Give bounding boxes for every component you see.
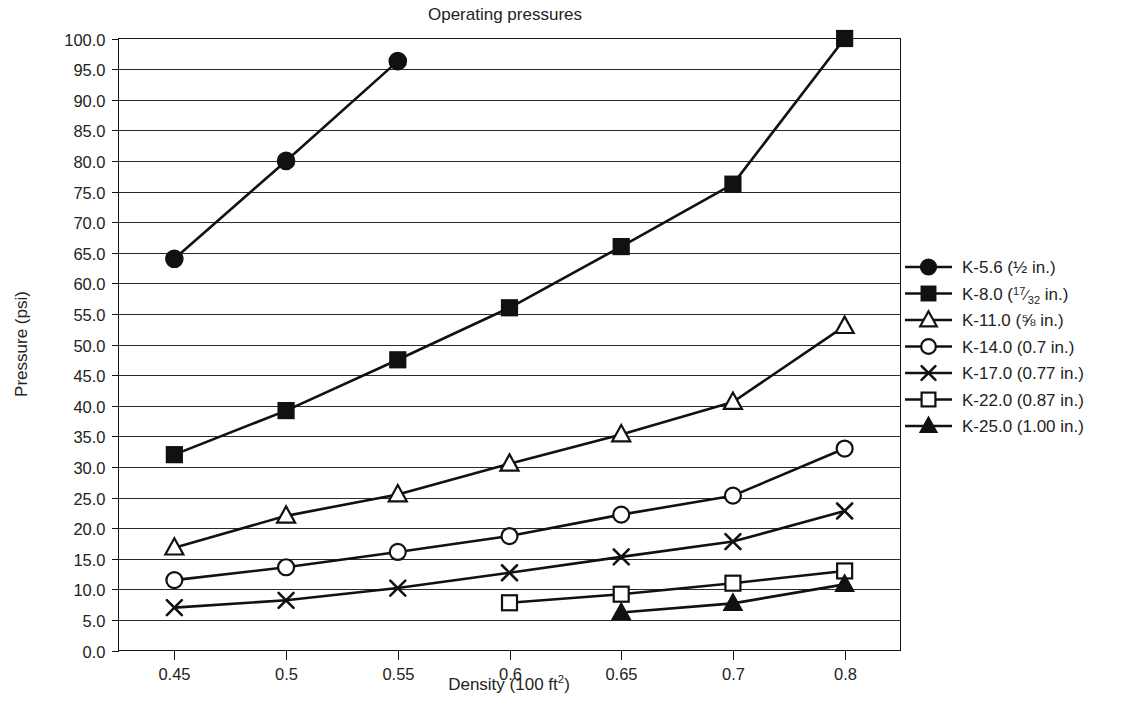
legend-label: K-14.0 (0.7 in.) <box>962 338 1074 357</box>
legend-item[interactable]: K-14.0 (0.7 in.) <box>905 338 1074 357</box>
y-axis-tick-label: 25.0 <box>73 490 105 508</box>
data-point-marker <box>278 403 294 419</box>
open-square-marker <box>725 576 740 591</box>
open-circle-marker <box>502 528 518 544</box>
x-axis-tick-label: 0.45 <box>158 665 190 683</box>
y-axis-tick-label: 85.0 <box>73 122 105 140</box>
data-point-marker <box>837 31 853 47</box>
y-axis-tick-label: 70.0 <box>73 214 105 232</box>
filled-square-marker <box>278 403 294 419</box>
data-point-marker <box>166 250 183 267</box>
open-circle-marker <box>725 488 741 504</box>
open-square-marker <box>614 587 629 602</box>
data-point-marker <box>390 352 406 368</box>
data-point-marker <box>613 239 629 255</box>
y-axis-tick-label: 80.0 <box>73 153 105 171</box>
open-circle-marker <box>837 441 853 457</box>
data-point-marker <box>613 507 629 523</box>
legend-fraction-denominator: 32 <box>1028 294 1040 306</box>
legend-label-main: K-14.0 (0.7 in.) <box>962 338 1074 357</box>
x-axis-tick-label: 0.7 <box>722 665 745 683</box>
legend-label-main: K-17.0 (0.77 in.) <box>962 364 1084 383</box>
open-circle-marker <box>921 339 936 354</box>
x-axis-title-main: Density (100 ft <box>448 675 558 694</box>
filled-square-marker <box>167 447 183 463</box>
legend-label: K-17.0 (0.77 in.) <box>962 364 1084 383</box>
filled-square-marker <box>921 286 935 300</box>
filled-circle-marker <box>389 53 406 70</box>
legend-label: K-22.0 (0.87 in.) <box>962 391 1084 410</box>
filled-square-marker <box>502 300 518 316</box>
y-axis-tick-label: 15.0 <box>73 551 105 569</box>
open-circle-marker <box>390 544 406 560</box>
filled-circle-marker <box>166 250 183 267</box>
data-point-marker <box>922 393 936 407</box>
filled-square-marker <box>613 239 629 255</box>
data-point-marker <box>278 559 294 575</box>
filled-circle-marker <box>921 259 937 275</box>
y-axis-tick-label: 10.0 <box>73 581 105 599</box>
legend-label-main: K-11.0 ( <box>962 311 1022 330</box>
data-point-marker <box>725 576 740 591</box>
y-axis-tick-label: 50.0 <box>73 337 105 355</box>
legend-label-tail: in.) <box>1040 285 1068 304</box>
y-axis-tick-label: 20.0 <box>73 520 105 538</box>
filled-square-marker <box>837 31 853 47</box>
legend-label-main: K-5.6 ( <box>962 258 1013 277</box>
legend-label-main: K-8.0 ( <box>962 285 1013 304</box>
legend-label-main: K-22.0 (0.87 in.) <box>962 391 1084 410</box>
x-axis-tick-label: 0.55 <box>382 665 414 683</box>
x-axis-title: Density (100 ft2) <box>448 673 570 694</box>
y-axis-tick-label: 35.0 <box>73 428 105 446</box>
open-square-marker <box>922 393 936 407</box>
legend-label: K-5.6 (½ in.) <box>962 258 1056 277</box>
legend-item[interactable]: K-11.0 (⅝ in.) <box>905 311 1064 330</box>
y-axis-tick-label: 100.0 <box>64 31 105 49</box>
y-axis-tick-label: 55.0 <box>73 306 105 324</box>
data-point-marker <box>921 259 937 275</box>
data-point-marker <box>921 286 935 300</box>
y-axis-tick-label: 40.0 <box>73 398 105 416</box>
legend-item[interactable]: K-5.6 (½ in.) <box>905 258 1056 277</box>
open-square-marker <box>502 595 517 610</box>
data-point-marker <box>725 176 741 192</box>
data-point-marker <box>390 544 406 560</box>
y-axis-tick-label: 60.0 <box>73 275 105 293</box>
open-circle-marker <box>278 559 294 575</box>
data-point-marker <box>167 447 183 463</box>
operating-pressures-figure: Operating pressures 0.05.010.015.020.025… <box>0 0 1145 707</box>
filled-square-marker <box>725 176 741 192</box>
y-axis-tick-label: 0.0 <box>83 643 106 661</box>
data-point-marker <box>614 587 629 602</box>
legend-label-fraction: ½ <box>1013 258 1027 277</box>
legend-label-fraction: ⅝ <box>1021 311 1036 330</box>
legend-fraction-numerator: 17 <box>1013 285 1025 297</box>
y-axis-tick-label: 90.0 <box>73 92 105 110</box>
legend-label-main: K-25.0 (1.00 in.) <box>962 417 1084 436</box>
data-point-marker <box>278 152 295 169</box>
y-axis-tick-label: 75.0 <box>73 184 105 202</box>
data-point-marker <box>837 441 853 457</box>
y-axis-tick-label: 30.0 <box>73 459 105 477</box>
y-axis-title: Pressure (psi) <box>12 291 31 397</box>
x-axis-tick-label: 0.65 <box>605 665 637 683</box>
chart-canvas: Operating pressures 0.05.010.015.020.025… <box>0 0 1145 707</box>
x-axis-title-tail: ) <box>564 675 570 694</box>
y-axis-tick-label: 5.0 <box>83 612 106 630</box>
data-point-marker <box>725 488 741 504</box>
data-point-marker <box>502 528 518 544</box>
legend-label: K-11.0 (⅝ in.) <box>962 311 1064 330</box>
open-circle-marker <box>613 507 629 523</box>
data-point-marker <box>166 572 182 588</box>
legend-label-tail: in.) <box>1035 311 1063 330</box>
data-point-marker <box>502 300 518 316</box>
y-axis-tick-label: 65.0 <box>73 245 105 263</box>
legend-item[interactable]: K-22.0 (0.87 in.) <box>905 391 1084 410</box>
legend-label: K-25.0 (1.00 in.) <box>962 417 1084 436</box>
x-axis-title-text: Density (100 ft2) <box>448 673 570 694</box>
data-point-marker <box>921 339 936 354</box>
y-axis-title-text: Pressure (psi) <box>12 291 31 397</box>
y-axis-tick-label: 45.0 <box>73 367 105 385</box>
x-axis-tick-label: 0.8 <box>834 665 857 683</box>
filled-square-marker <box>390 352 406 368</box>
